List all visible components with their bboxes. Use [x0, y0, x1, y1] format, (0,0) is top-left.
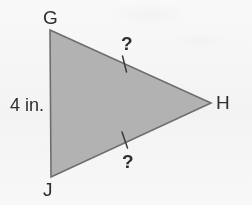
unknown-side-label-gh: ?	[121, 34, 133, 53]
vertex-label-g: G	[43, 8, 58, 27]
unknown-side-label-jh: ?	[122, 152, 134, 171]
side-length-label-gj: 4 in.	[10, 96, 44, 114]
vertex-label-j: J	[43, 180, 53, 199]
vertex-label-h: H	[216, 93, 230, 112]
